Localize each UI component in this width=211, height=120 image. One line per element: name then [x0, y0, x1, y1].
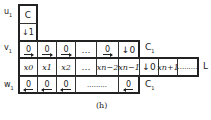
left-arrow-zero: 0: [44, 80, 49, 89]
w-cell-1: 0: [37, 76, 57, 94]
v-cell-0: 0: [18, 40, 38, 58]
l-cell-down-0: ↓0: [139, 57, 159, 77]
l-cell-x1: x1: [37, 57, 57, 77]
row-label-v: v1: [4, 43, 12, 54]
row-label-w: w1: [4, 80, 14, 91]
left-arrow-zero: 0: [26, 80, 31, 89]
v-cell-2: 0: [56, 40, 76, 58]
right-arrow-zero: 0: [63, 45, 68, 54]
cell-down-1-label: ↓1: [22, 28, 34, 37]
left-arrow-zero: 0: [126, 80, 131, 89]
v-cell-down-0: ↓0: [118, 40, 140, 58]
label-c1-bottom: C1: [145, 79, 154, 91]
right-arrow-zero: 0: [44, 45, 49, 54]
l-cell-x0: x0: [18, 57, 38, 77]
w-cell-2: 0: [56, 76, 76, 94]
w-cell-dots: .........: [75, 76, 119, 94]
l-cell-x2: x2: [56, 57, 76, 77]
w-cell-0: 0: [18, 76, 38, 94]
right-arrow-zero: 0: [105, 45, 110, 54]
cell-c: C: [18, 4, 38, 24]
l-cell-xn2: xn−2: [96, 57, 119, 77]
cell-c-label: C: [25, 10, 31, 20]
l-cell-xn+1: xn+1: [158, 57, 178, 77]
cell-down-1: ↓1: [18, 23, 38, 41]
l-cell-dots: .........: [177, 57, 199, 77]
label-L: L: [203, 61, 208, 71]
v-cell-n2: 0: [96, 40, 119, 58]
down-arrow-zero: ↓0: [122, 45, 135, 55]
ellipsis: …: [82, 45, 91, 55]
right-arrow-zero: 0: [26, 45, 31, 54]
label-c1-top: C1: [145, 42, 154, 54]
l-cell-xn1: xn−1: [118, 57, 140, 77]
caption: (h): [96, 101, 107, 110]
v-cell-1: 0: [37, 40, 57, 58]
v-cell-ellipsis: …: [75, 40, 97, 58]
l-cell-ellipsis: …: [75, 57, 97, 77]
row-label-u: u1: [4, 7, 12, 18]
left-arrow-zero: 0: [63, 80, 68, 89]
w-cell-last: 0: [118, 76, 140, 94]
